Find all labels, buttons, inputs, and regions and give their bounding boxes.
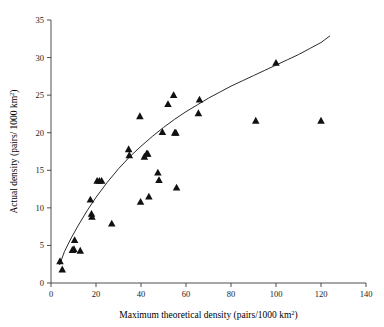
y-tick-label: 5 [40,240,44,250]
data-point-marker [170,91,178,98]
y-axis-ticks: 05101520253035 [36,15,52,288]
y-tick-label: 15 [36,165,45,175]
data-point-marker [145,193,153,200]
y-tick-label: 25 [36,90,45,100]
y-tick-label: 20 [36,128,45,138]
data-point-marker [196,96,204,103]
y-tick-label: 30 [36,53,45,63]
data-point-marker [108,220,116,227]
scatter-plot-figure: 05101520253035 020406080100120140 Maximu… [0,0,384,327]
x-tick-label: 140 [360,289,373,299]
data-markers [56,59,325,272]
data-point-marker [272,59,280,66]
data-point-marker [173,184,181,191]
data-point-marker [195,109,203,116]
data-point-marker [136,112,144,119]
x-tick-label: 60 [182,289,191,299]
data-point-marker [317,117,325,124]
fit-curve [60,36,330,265]
x-axis-title: Maximum theoretical density (pairs/1000 … [119,309,297,321]
data-point-marker [58,266,66,273]
x-tick-label: 80 [227,289,236,299]
x-tick-label: 40 [137,289,146,299]
x-tick-label: 100 [270,289,283,299]
x-tick-label: 120 [315,289,328,299]
plot-canvas: 05101520253035 020406080100120140 Maximu… [0,0,384,327]
data-point-marker [155,176,163,183]
x-tick-label: 20 [92,289,101,299]
data-point-marker [87,196,95,203]
y-tick-label: 35 [36,15,45,25]
data-point-marker [125,145,133,152]
y-axis-title: Actual density (pairs/ 1000 km2) [8,89,20,213]
data-point-marker [137,198,145,205]
data-point-marker [164,100,172,107]
y-tick-label: 0 [40,278,44,288]
x-tick-label: 0 [49,289,53,299]
data-point-marker [159,128,167,135]
y-tick-label: 10 [36,203,45,213]
data-point-marker [56,257,64,264]
data-point-marker [76,247,84,254]
x-axis-ticks: 020406080100120140 [49,283,373,299]
data-point-marker [154,169,162,176]
data-point-marker [252,117,260,124]
